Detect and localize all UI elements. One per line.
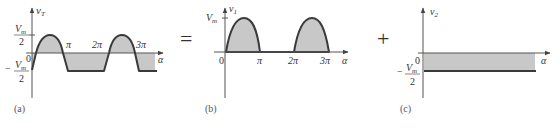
chart-a: vT Vm 2 0 − Vm 2 π 2π 3π α (a) [5, 4, 164, 115]
chart-b-x-label: α [342, 55, 348, 66]
chart-a-xtick-2pi: 2π [92, 39, 103, 50]
chart-a-xtick-pi: π [66, 39, 72, 50]
chart-b-shaded-hump [294, 18, 329, 52]
chart-a-shaded-area [109, 35, 135, 53]
decomposition-figure: vT Vm 2 0 − Vm 2 π 2π 3π α (a) = v1 Vm 0… [0, 0, 555, 130]
chart-a-ytick-vm2-num: Vm [15, 23, 26, 36]
chart-c-x-label: α [541, 55, 547, 66]
chart-b-caption: (b) [205, 103, 217, 115]
chart-b-y-label: v1 [229, 3, 237, 16]
chart-a-x-label: α [158, 54, 164, 65]
chart-b-shaded-hump [226, 18, 260, 52]
chart-a-caption: (a) [14, 103, 25, 115]
chart-a-shaded-area [63, 53, 109, 71]
chart-b-xtick-2pi: 2π [288, 55, 299, 66]
chart-c-ytick-neg-den: 2 [410, 76, 415, 87]
chart-b-origin-label: 0 [219, 55, 224, 66]
chart-c: v2 0 − Vm 2 α (c) [397, 6, 550, 115]
chart-c-y-label: v2 [430, 6, 438, 19]
chart-a-ytick-neg-num: Vm [15, 59, 26, 72]
chart-a-ytick-neg-den: 2 [19, 73, 24, 84]
chart-b-xtick-3pi: 3π [319, 55, 331, 66]
chart-a-ytick-neg-sign: − [5, 63, 11, 74]
chart-b-ytick-vm: Vm [206, 12, 217, 25]
chart-c-origin-label: 0 [415, 55, 420, 66]
chart-c-shaded-area [424, 53, 535, 71]
chart-c-ytick-neg-sign: − [397, 66, 403, 77]
chart-c-caption: (c) [400, 103, 411, 115]
equals-sign: = [180, 26, 192, 51]
chart-a-y-label: vT [36, 4, 46, 18]
plus-sign: + [377, 26, 389, 51]
chart-b: v1 Vm 0 π 2π 3π α (b) [205, 3, 348, 115]
chart-a-ytick-vm2-den: 2 [19, 36, 24, 47]
chart-b-xtick-pi: π [257, 55, 263, 66]
chart-a-origin-label: 0 [26, 53, 31, 64]
chart-a-xtick-3pi: 3π [135, 39, 147, 50]
